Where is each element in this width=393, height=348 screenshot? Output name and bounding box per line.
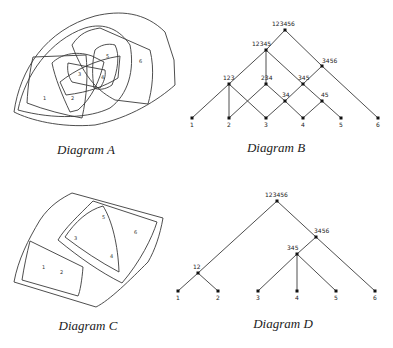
svg-text:1: 1 xyxy=(176,294,180,301)
caption-diagram-a: Diagram A xyxy=(57,142,115,158)
svg-text:4: 4 xyxy=(295,294,299,301)
caption-diagram-d: Diagram D xyxy=(253,316,313,332)
region-c-123456 xyxy=(14,193,163,307)
label-a-2: 2 xyxy=(71,95,74,101)
node-d-3456: 3456 xyxy=(314,227,329,239)
node-b-1: 1 xyxy=(190,117,194,129)
node-b-12345: 12345 xyxy=(252,40,271,52)
label-a-1: 1 xyxy=(43,95,46,101)
svg-text:234: 234 xyxy=(261,74,273,81)
svg-text:5: 5 xyxy=(339,121,343,128)
node-b-45: 45 xyxy=(321,91,329,103)
svg-text:3456: 3456 xyxy=(314,227,329,234)
caption-diagram-b: Diagram B xyxy=(247,140,305,156)
node-d-2: 2 xyxy=(216,290,220,302)
label-c-1: 1 xyxy=(42,264,45,270)
svg-text:3: 3 xyxy=(256,294,260,301)
region-123456 xyxy=(14,13,175,126)
node-b-4: 4 xyxy=(301,117,305,129)
node-b-2: 2 xyxy=(227,117,231,129)
svg-text:1: 1 xyxy=(190,121,194,128)
label-c-6: 6 xyxy=(134,229,137,235)
svg-text:4: 4 xyxy=(301,121,305,128)
caption-diagram-c: Diagram C xyxy=(59,318,118,334)
svg-text:45: 45 xyxy=(321,91,329,98)
node-b-123456: 123456 xyxy=(272,20,295,32)
node-b-34: 34 xyxy=(282,91,290,103)
node-d-123456: 123456 xyxy=(265,191,288,203)
diagram-b: 123456 12345 3456 123 234 345 34 45 1 2 … xyxy=(190,20,380,128)
node-b-345: 345 xyxy=(298,74,310,86)
label-a-4: 4 xyxy=(101,74,104,80)
label-a-6: 6 xyxy=(139,58,142,64)
node-b-3: 3 xyxy=(264,117,268,129)
svg-text:12345: 12345 xyxy=(252,40,271,47)
svg-text:5: 5 xyxy=(334,294,338,301)
diagram-d: 123456 3456 345 12 1 2 3 4 5 6 xyxy=(176,191,377,301)
svg-text:3: 3 xyxy=(264,121,268,128)
svg-text:6: 6 xyxy=(376,121,380,128)
svg-text:123456: 123456 xyxy=(265,191,288,198)
svg-text:2: 2 xyxy=(216,294,220,301)
diagram-a: 1 2 3 4 5 6 xyxy=(14,13,175,126)
node-d-1: 1 xyxy=(176,290,180,302)
node-d-4: 4 xyxy=(295,290,299,302)
node-b-234: 234 xyxy=(261,74,273,86)
node-d-3: 3 xyxy=(256,290,260,302)
label-a-5: 5 xyxy=(106,53,109,59)
svg-text:123456: 123456 xyxy=(272,20,295,27)
svg-text:123: 123 xyxy=(223,74,235,81)
node-d-345: 345 xyxy=(287,244,299,256)
diagram-c: 1 2 3 4 5 6 xyxy=(14,193,163,307)
node-b-123: 123 xyxy=(223,74,235,86)
node-d-5: 5 xyxy=(334,290,338,302)
svg-text:12: 12 xyxy=(193,263,201,270)
region-c-12 xyxy=(22,241,83,296)
label-c-5: 5 xyxy=(102,214,105,220)
svg-text:6: 6 xyxy=(373,294,377,301)
label-a-3: 3 xyxy=(78,71,81,77)
node-b-6: 6 xyxy=(376,117,380,129)
node-d-12: 12 xyxy=(193,263,201,275)
region-c-3456 xyxy=(58,201,157,283)
svg-text:345: 345 xyxy=(287,244,299,251)
region-12345 xyxy=(18,26,132,117)
label-c-3: 3 xyxy=(74,235,77,241)
region-45 xyxy=(93,44,118,89)
svg-text:345: 345 xyxy=(298,74,310,81)
node-d-6: 6 xyxy=(373,290,377,302)
svg-text:34: 34 xyxy=(282,91,290,98)
svg-text:3456: 3456 xyxy=(322,57,337,64)
node-b-3456: 3456 xyxy=(321,57,338,68)
node-b-5: 5 xyxy=(339,117,343,129)
label-c-4: 4 xyxy=(110,253,113,259)
svg-text:2: 2 xyxy=(227,121,231,128)
label-c-2: 2 xyxy=(60,269,63,275)
